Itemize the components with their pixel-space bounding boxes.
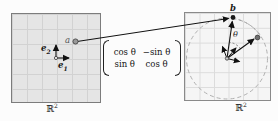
matrix-entry-r0c0: cos θ bbox=[114, 47, 136, 57]
theta-angle-arc bbox=[229, 42, 240, 49]
matrix-entry-r1c0: sin θ bbox=[114, 59, 136, 69]
point-preimage-dot bbox=[255, 35, 260, 40]
point-b-dot bbox=[231, 15, 236, 20]
point-a-dot bbox=[73, 39, 78, 44]
basis-e2-label: e2 bbox=[41, 44, 51, 53]
rotation-matrix: cos θ −sin θ sin θ cos θ bbox=[103, 40, 181, 76]
mapping-arrow-a-to-b bbox=[77, 19, 229, 42]
figure-rotation-diagram: e2 e1 a b θ ℝ2 ℝ2 cos θ −sin θ sin θ cos… bbox=[0, 0, 278, 121]
vector-to-preimage bbox=[227, 39, 254, 59]
matrix-entry-r1c1: cos θ bbox=[143, 59, 171, 69]
matrix-entries: cos θ −sin θ sin θ cos θ bbox=[109, 40, 175, 76]
right-origin-dot bbox=[225, 57, 228, 60]
matrix-entry-r0c1: −sin θ bbox=[143, 47, 171, 57]
point-a-label: a bbox=[65, 36, 70, 45]
point-b-label: b bbox=[230, 4, 236, 13]
left-plane-r2-label: ℝ2 bbox=[40, 104, 64, 114]
theta-label: θ bbox=[233, 31, 238, 39]
matrix-right-paren bbox=[175, 40, 181, 76]
basis-e1-label: e1 bbox=[58, 61, 68, 70]
right-plane-r2-label: ℝ2 bbox=[229, 103, 253, 113]
